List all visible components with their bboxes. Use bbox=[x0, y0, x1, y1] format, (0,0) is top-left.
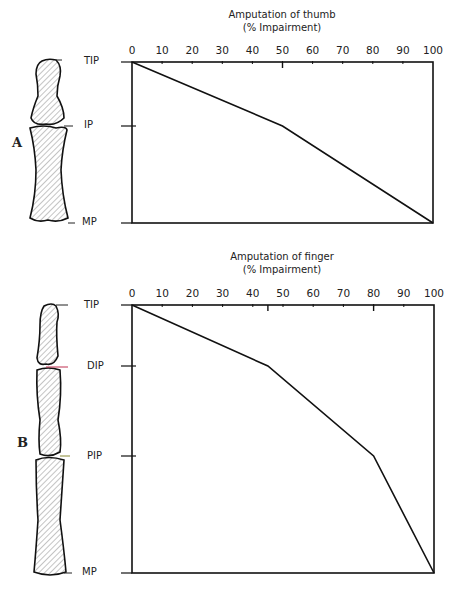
finger-bone-illustration bbox=[34, 304, 66, 575]
thumb-impairment-line bbox=[132, 62, 433, 223]
thumb-bone-illustration bbox=[30, 59, 68, 221]
thumb-chart bbox=[121, 61, 433, 223]
finger-impairment-line bbox=[132, 305, 434, 573]
charts-canvas bbox=[0, 0, 459, 590]
finger-chart bbox=[121, 304, 434, 573]
